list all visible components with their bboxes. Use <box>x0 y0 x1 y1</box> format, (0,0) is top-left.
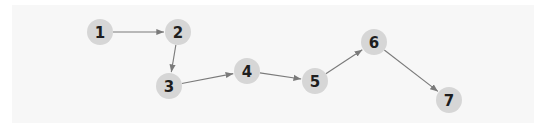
edge-5-to-6 <box>326 50 362 74</box>
node-label: 1 <box>95 24 105 42</box>
edge-4-to-5 <box>260 73 301 79</box>
directed-graph: 1234567 <box>0 0 547 131</box>
edge-3-to-4 <box>182 74 233 84</box>
node-label: 7 <box>444 92 454 110</box>
node-1: 1 <box>87 19 113 45</box>
node-4: 4 <box>234 58 260 84</box>
node-label: 5 <box>310 73 320 91</box>
node-3: 3 <box>156 73 182 99</box>
node-6: 6 <box>361 29 387 55</box>
edge-2-to-3 <box>171 45 176 72</box>
node-7: 7 <box>436 87 462 113</box>
edge-6-to-7 <box>384 50 438 91</box>
node-label: 6 <box>369 34 379 52</box>
node-2: 2 <box>165 19 191 45</box>
node-label: 4 <box>242 63 252 81</box>
node-label: 3 <box>164 78 174 96</box>
node-5: 5 <box>302 68 328 94</box>
node-label: 2 <box>173 24 183 42</box>
